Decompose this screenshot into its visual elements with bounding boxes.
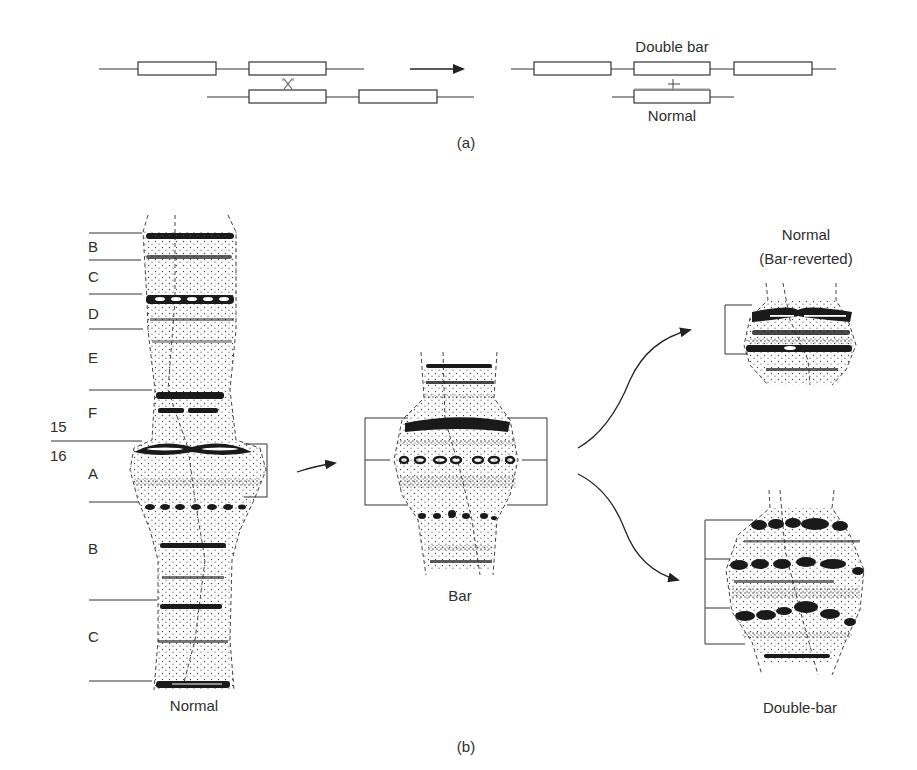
division-label-15: 15 <box>50 418 67 435</box>
region-label-d: D <box>88 305 99 322</box>
bar-caption: Bar <box>448 587 471 604</box>
region-label-a: A <box>88 465 98 482</box>
normal-caption: Normal <box>170 697 218 714</box>
bar-duplication-figure: Double bar Normal (a) <box>0 0 917 770</box>
double-bar-chromosome <box>705 490 864 675</box>
chromosome-bottom-left <box>207 90 474 103</box>
chromosome-normal <box>612 88 734 103</box>
region-label-b1: B <box>88 238 98 255</box>
chromosome-top-left <box>99 62 364 75</box>
panel-a-label: (a) <box>457 134 475 151</box>
bar-chromosome <box>365 352 547 575</box>
region-label-c1: C <box>88 268 99 285</box>
division-label-16: 16 <box>50 447 67 464</box>
reverted-caption-line1: Normal <box>782 226 830 243</box>
panel-b-label: (b) <box>457 738 475 755</box>
region-label-f: F <box>88 404 97 421</box>
region-label-b2: B <box>88 540 98 557</box>
region-label-c2: C <box>88 628 99 645</box>
arrow-icon <box>297 463 335 472</box>
region-label-e: E <box>88 349 98 366</box>
panel-a: Double bar Normal (a) <box>99 38 836 151</box>
panel-b: B C D E F A B C 15 16 Normal <box>50 215 864 755</box>
crossover-icon <box>283 78 293 89</box>
chromosome-double-bar <box>511 62 836 75</box>
normal-label-a: Normal <box>648 107 696 124</box>
arrow-icon <box>578 330 690 448</box>
double-bar-caption: Double-bar <box>763 699 837 716</box>
reverted-caption-line2: (Bar-reverted) <box>759 250 852 267</box>
double-bar-label: Double bar <box>635 38 708 55</box>
reverted-chromosome <box>725 283 856 385</box>
arrow-icon <box>578 474 678 580</box>
normal-chromosome <box>130 215 266 690</box>
